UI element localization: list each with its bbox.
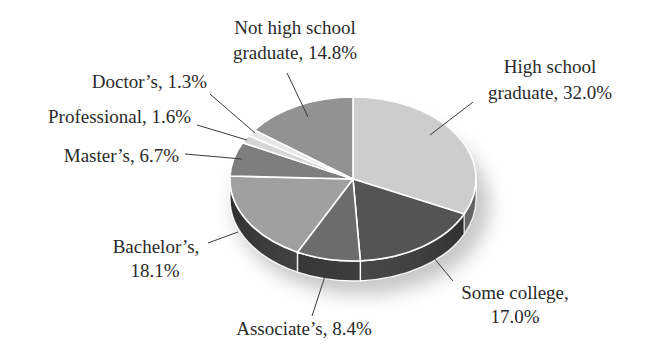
label-some-college-2: 17.0% <box>490 306 539 327</box>
leader-bachelors <box>208 232 238 243</box>
label-high-school-2: graduate, 32.0% <box>488 82 612 103</box>
label-bachelors-2: 18.1% <box>130 260 179 281</box>
label-professional: Professional, 1.6% <box>48 106 191 127</box>
label-bachelors-1: Bachelor’s, <box>113 236 200 257</box>
leader-masters <box>185 154 242 159</box>
label-some-college-1: Some college, <box>461 282 569 303</box>
label-masters: Master’s, 6.7% <box>64 145 179 166</box>
label-not-high-school-2: graduate, 14.8% <box>233 42 357 63</box>
leader-doctors <box>210 94 255 133</box>
pie-tops <box>230 97 476 261</box>
label-not-high-school-1: Not high school <box>234 17 355 38</box>
leader-professional <box>197 125 247 140</box>
label-associates: Associate’s, 8.4% <box>236 318 372 339</box>
pie-chart: Not high school graduate, 14.8% High sch… <box>0 0 649 356</box>
label-doctors: Doctor’s, 1.3% <box>92 71 207 92</box>
label-high-school-1: High school <box>504 56 596 77</box>
